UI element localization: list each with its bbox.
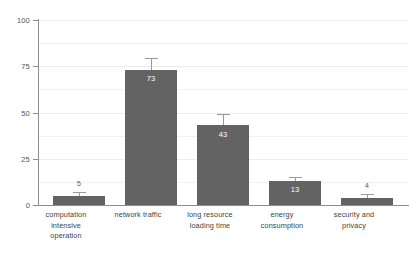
- x-category-line: consumption: [243, 221, 321, 232]
- y-tick-0: [33, 205, 39, 206]
- x-category-line: loading time: [171, 221, 249, 232]
- errorbar-cap-energy-consumption: [289, 177, 302, 178]
- x-category-line: computation: [27, 210, 105, 221]
- y-tick-label-100: 100: [0, 17, 30, 25]
- bar-group-energy-consumption[interactable]: 13: [269, 20, 321, 205]
- y-tick-label-50: 50: [0, 110, 30, 118]
- x-category-label-computation-intensive-operation: computation intensive operation: [27, 210, 105, 242]
- bar-value-label: 13: [269, 186, 321, 194]
- x-category-line: energy: [243, 210, 321, 221]
- errorbar-cap-computation-intensive-operation: [73, 192, 86, 193]
- x-category-line: long resource: [171, 210, 249, 221]
- y-tick-label-25: 25: [0, 156, 30, 164]
- bar-network-traffic[interactable]: [125, 70, 177, 205]
- x-category-label-security-and-privacy: security and privacy: [315, 210, 393, 231]
- bar-chart: 5 73 43 13 4 0: [0, 0, 409, 259]
- bar-group-long-resource-loading-time[interactable]: 43: [197, 20, 249, 205]
- y-tick-label-75: 75: [0, 63, 30, 71]
- errorbar-cap-security-and-privacy: [361, 194, 374, 195]
- y-tick-25: [33, 159, 39, 160]
- x-category-line: security and: [315, 210, 393, 221]
- bar-value-label: 5: [53, 180, 105, 188]
- bar-value-label: 73: [125, 75, 177, 83]
- bar-computation-intensive-operation[interactable]: [53, 196, 105, 205]
- errorbar-cap-long-resource-loading-time: [217, 114, 230, 115]
- y-tick-label-0: 0: [0, 202, 30, 210]
- errorbar-network-traffic: [151, 59, 152, 70]
- x-category-label-energy-consumption: energy consumption: [243, 210, 321, 231]
- y-tick-100: [33, 20, 39, 21]
- y-tick-50: [33, 113, 39, 114]
- x-category-line: network traffic: [99, 210, 177, 221]
- x-category-line: privacy: [315, 221, 393, 232]
- bar-value-label: 4: [341, 182, 393, 190]
- y-tick-75: [33, 66, 39, 67]
- bar-group-security-and-privacy[interactable]: 4: [341, 20, 393, 205]
- bar-group-computation-intensive-operation[interactable]: 5: [53, 20, 105, 205]
- x-category-line: intensive: [27, 221, 105, 232]
- errorbar-cap-network-traffic: [145, 58, 158, 59]
- x-category-line: operation: [27, 231, 105, 242]
- errorbar-security-and-privacy: [367, 195, 368, 198]
- errorbar-long-resource-loading-time: [223, 115, 224, 125]
- errorbar-energy-consumption: [295, 178, 296, 181]
- bar-group-network-traffic[interactable]: 73: [125, 20, 177, 205]
- x-category-label-network-traffic: network traffic: [99, 210, 177, 221]
- x-category-label-long-resource-loading-time: long resource loading time: [171, 210, 249, 231]
- x-axis-line: [38, 205, 409, 206]
- bar-security-and-privacy[interactable]: [341, 198, 393, 205]
- bar-value-label: 43: [197, 131, 249, 139]
- errorbar-computation-intensive-operation: [79, 193, 80, 196]
- plot-area: 5 73 43 13 4: [39, 20, 409, 205]
